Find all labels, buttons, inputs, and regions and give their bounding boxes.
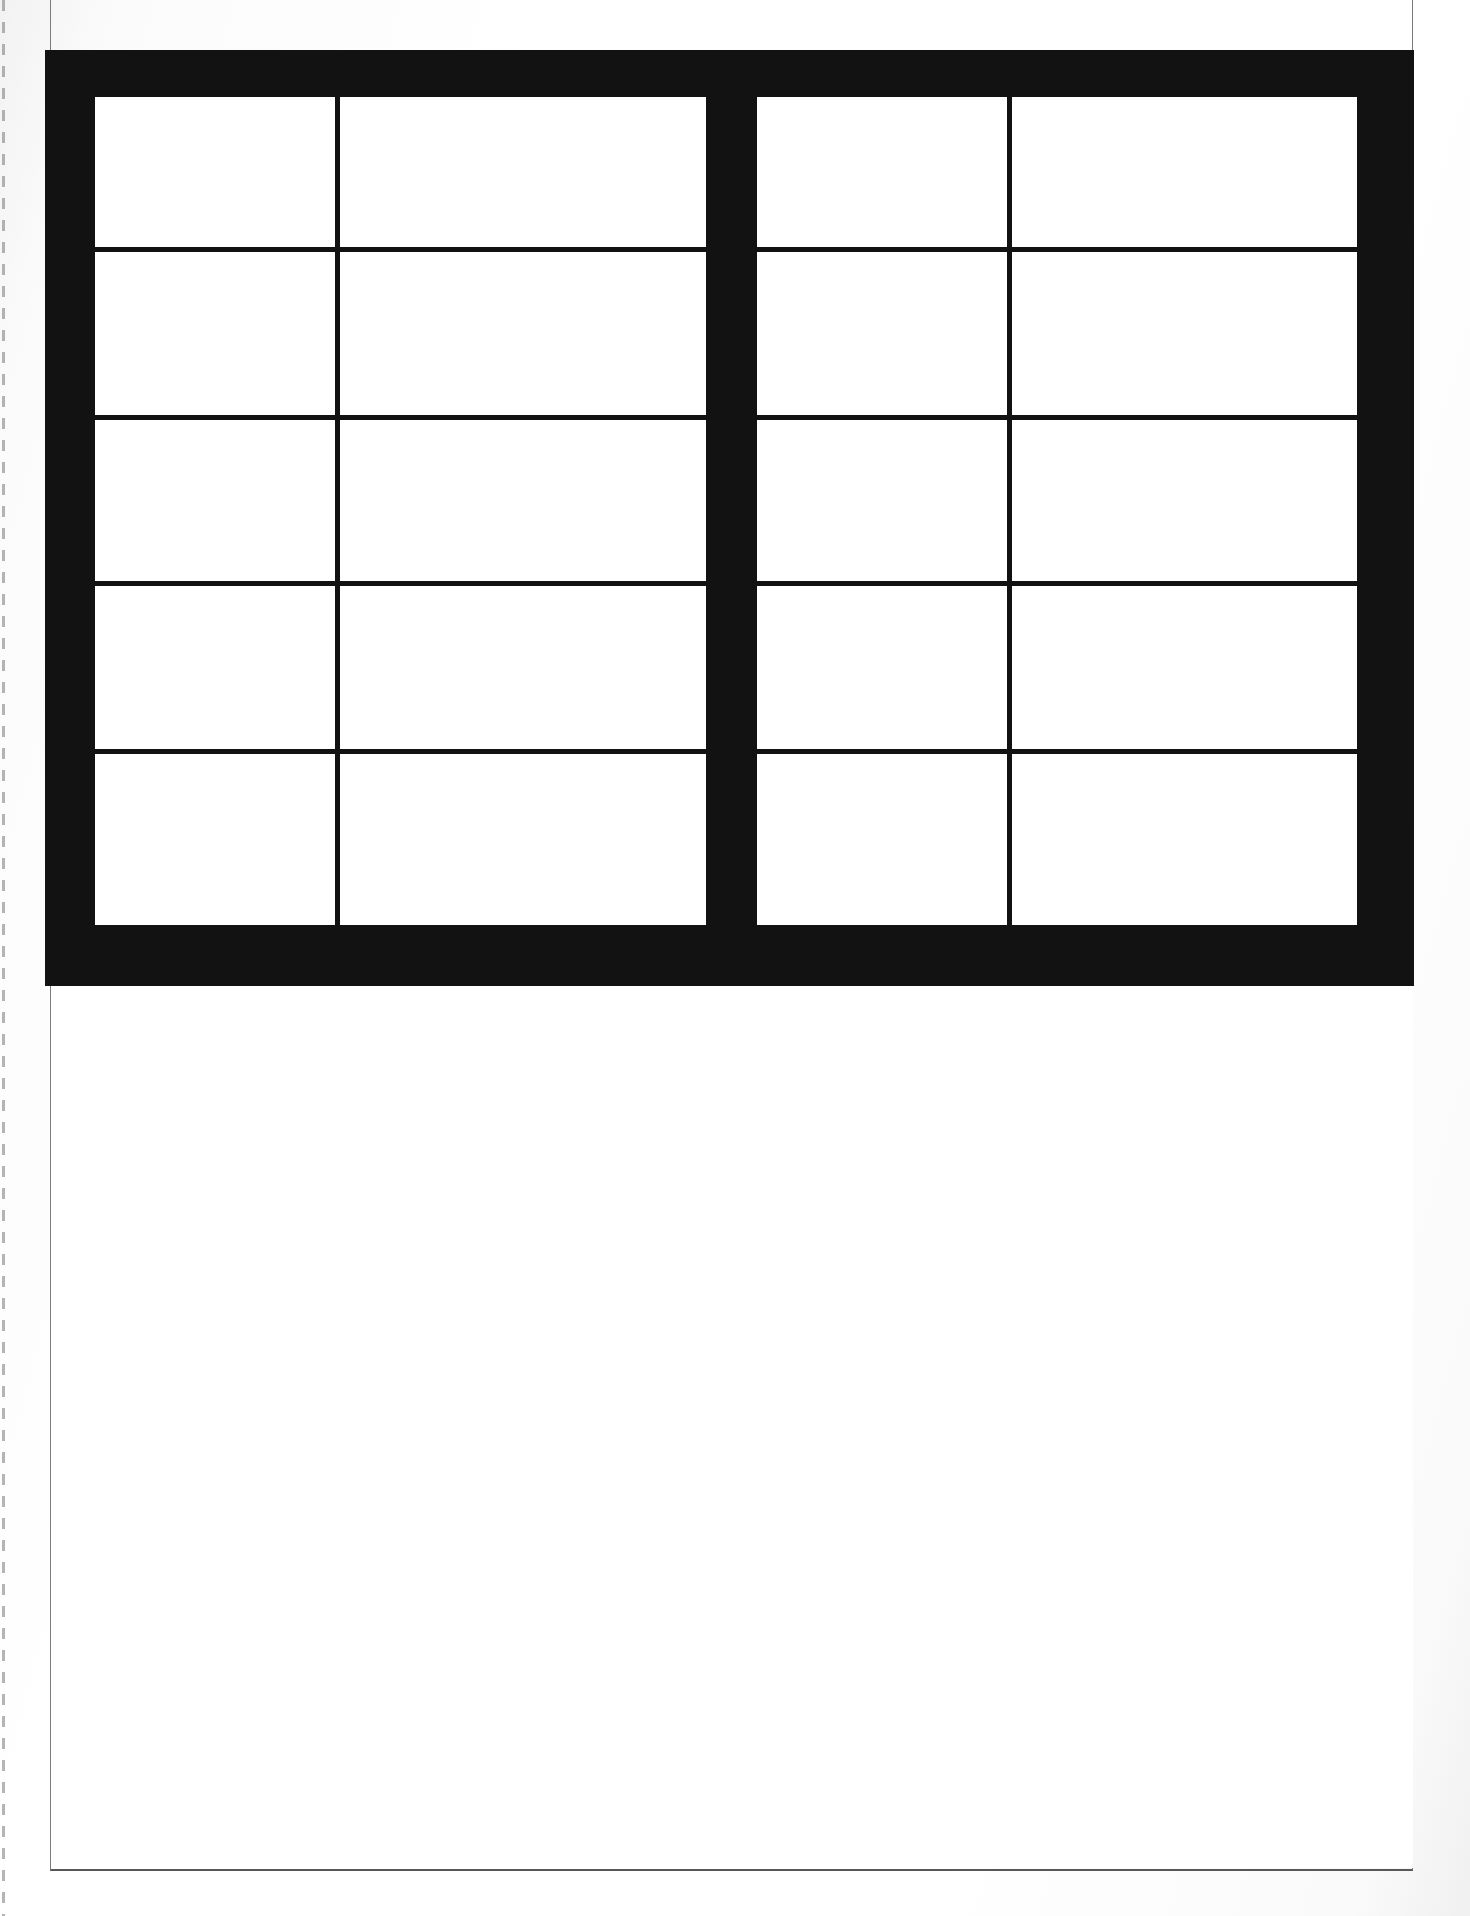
table-cell[interactable] (757, 252, 1007, 415)
table-cell[interactable] (757, 97, 1007, 247)
table-row (757, 97, 1357, 247)
table-row (95, 586, 706, 749)
table-cell[interactable] (95, 420, 335, 581)
table-cell[interactable] (95, 754, 335, 925)
table-cell[interactable] (1012, 252, 1357, 415)
table-cell[interactable] (95, 97, 335, 247)
table-cell[interactable] (1012, 97, 1357, 247)
table-cell[interactable] (340, 420, 706, 581)
table-center-divider (706, 97, 757, 934)
table-cell[interactable] (1012, 754, 1357, 925)
table-cell[interactable] (340, 97, 706, 247)
table-half-left (95, 97, 706, 934)
table-row (757, 252, 1357, 415)
table-row (95, 252, 706, 415)
table-row (757, 754, 1357, 925)
table-cell[interactable] (757, 420, 1007, 581)
table-cell[interactable] (757, 754, 1007, 925)
scanned-page (0, 0, 1470, 1916)
table-cell[interactable] (340, 252, 706, 415)
page-body-area (51, 986, 1413, 1868)
table-row (757, 420, 1357, 581)
table-row (95, 97, 706, 247)
table-cell[interactable] (1012, 586, 1357, 749)
table-cell[interactable] (95, 586, 335, 749)
table-row (95, 420, 706, 581)
page-caption (0, 0, 1, 1)
table-cell[interactable] (95, 252, 335, 415)
scanner-edge-artifact (2, 0, 5, 1916)
table-cell[interactable] (340, 754, 706, 925)
table-half-right (757, 97, 1357, 934)
bordered-table (45, 50, 1414, 986)
table-cell[interactable] (340, 586, 706, 749)
table-cell[interactable] (757, 586, 1007, 749)
table-row (757, 586, 1357, 749)
table-row (95, 754, 706, 925)
table-cell[interactable] (1012, 420, 1357, 581)
